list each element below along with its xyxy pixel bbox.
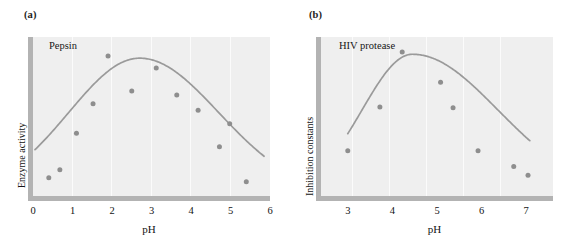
data-point — [451, 105, 456, 110]
fit-curve — [35, 58, 264, 156]
x-tick-label: 5 — [228, 205, 233, 216]
x-tick-label: 6 — [479, 205, 484, 216]
data-point — [345, 148, 350, 153]
panel-b-y-axis-bar — [316, 37, 321, 201]
data-point — [438, 80, 443, 85]
panel-b-series-title: HIV protease — [339, 40, 395, 51]
data-point — [227, 121, 232, 126]
fit-curve — [348, 54, 530, 140]
panel-a-chart-svg — [33, 37, 270, 196]
data-point — [244, 179, 249, 184]
x-tick-label: 0 — [30, 205, 35, 216]
x-tick-label: 5 — [434, 205, 439, 216]
data-point — [377, 104, 382, 109]
x-tick-label: 3 — [345, 205, 350, 216]
data-point — [400, 50, 405, 55]
x-tick-label: 3 — [149, 205, 154, 216]
x-tick-label: 7 — [524, 205, 529, 216]
data-point — [196, 108, 201, 113]
data-point — [129, 89, 134, 94]
data-point — [526, 173, 531, 178]
figure-container: (a) Pepsin Enzyme activity pH 0123456 (b… — [0, 0, 570, 247]
data-point — [91, 101, 96, 106]
panel-a-y-axis-title: Enzyme activity — [16, 123, 27, 188]
data-point — [217, 144, 222, 149]
data-point — [476, 148, 481, 153]
panel-a-plot-area: Pepsin — [33, 37, 270, 196]
panel-b-chart-svg — [321, 37, 553, 196]
panel-b-x-axis-bar — [316, 196, 553, 201]
x-tick-label: 1 — [70, 205, 75, 216]
x-tick-label: 4 — [390, 205, 395, 216]
panel-b-label: (b) — [309, 9, 322, 20]
data-point — [106, 54, 111, 59]
panel-b-plot: HIV protease — [316, 37, 553, 201]
panel-b-x-axis-title: pH — [316, 223, 553, 235]
data-point — [74, 131, 79, 136]
panel-b-plot-area: HIV protease — [321, 37, 553, 196]
x-tick-label: 4 — [188, 205, 193, 216]
panel-b-y-axis-title: Inhibition constants — [304, 117, 315, 196]
panel-a-series-title: Pepsin — [49, 40, 77, 51]
data-point — [174, 93, 179, 98]
data-point — [46, 175, 51, 180]
x-tick-label: 6 — [267, 205, 272, 216]
data-point — [511, 164, 516, 169]
panel-a-label: (a) — [24, 9, 37, 20]
panel-a-x-axis-bar — [28, 196, 270, 201]
panel-a-plot: Pepsin — [28, 37, 270, 201]
panel-a: (a) Pepsin Enzyme activity pH 0123456 — [0, 0, 285, 247]
x-tick-label: 2 — [109, 205, 114, 216]
panel-b: (b) HIV protease Inhibition constants pH… — [285, 0, 570, 247]
data-point — [154, 66, 159, 71]
panel-a-y-axis-bar — [28, 37, 33, 201]
panel-a-x-axis-title: pH — [28, 223, 270, 235]
data-point — [57, 167, 62, 172]
